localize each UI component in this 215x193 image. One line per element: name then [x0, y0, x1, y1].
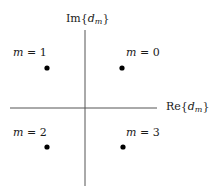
constellation-diagram	[0, 0, 215, 193]
point-m0	[119, 65, 124, 70]
point-label-m2: m = 2	[13, 127, 47, 139]
point-m1	[44, 65, 49, 70]
point-label-m0: m = 0	[126, 47, 160, 59]
vertical-axis-label: Im{dm}	[66, 13, 109, 28]
point-label-m1: m = 1	[13, 47, 47, 59]
horizontal-axis-label: Re{dm}	[166, 101, 209, 116]
point-m2	[44, 144, 49, 149]
point-label-m3: m = 3	[126, 127, 160, 139]
point-m3	[120, 144, 125, 149]
